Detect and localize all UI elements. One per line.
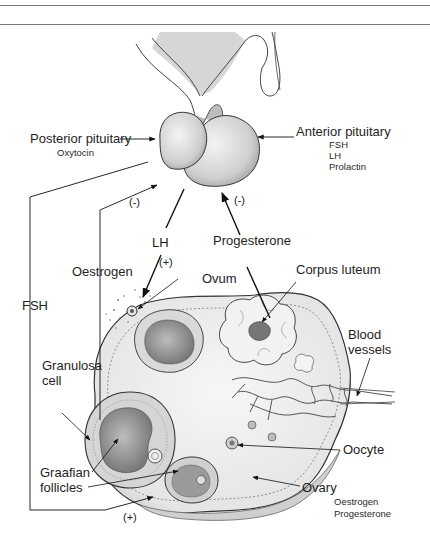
progesterone-feedback-sign: (-) [234, 194, 245, 206]
fsh-label: FSH [22, 298, 48, 313]
posterior-pituitary-hormone-oxytocin: Oxytocin [57, 147, 94, 159]
posterior-pituitary-label: Posterior pituitary [30, 131, 131, 146]
ovary [85, 289, 395, 520]
graafian-follicles-label-line1: Graafian [40, 465, 90, 480]
graafian-follicles-label-line2: follicles [40, 480, 83, 495]
granulosa-cell-label-line1: Granulosa [42, 358, 102, 373]
lh-effect-sign: (+) [159, 256, 173, 268]
ovary-hormone-progesterone: Progesterone [334, 508, 391, 520]
oocyte-label: Oocyte [343, 442, 384, 457]
ovary-label: Ovary [302, 480, 337, 495]
corpus-luteum-label: Corpus luteum [296, 262, 381, 277]
oestrogen-label: Oestrogen [72, 264, 133, 279]
blood-vessels-label-line2: vessels [348, 342, 391, 357]
lh-label: LH [152, 235, 169, 250]
fsh-effect-sign: (+) [123, 511, 137, 523]
granulosa-cell-label-line2: cell [42, 373, 62, 388]
blood-vessels-label-line1: Blood [348, 327, 381, 342]
progesterone-label: Progesterone [213, 233, 291, 248]
oestrogen-feedback-sign: (-) [129, 196, 140, 208]
pituitary-gland [136, 32, 280, 186]
anterior-pituitary-label: Anterior pituitary [296, 124, 391, 139]
ovum-label: Ovum [202, 271, 237, 286]
anterior-pituitary-hormone-prolactin: Prolactin [329, 161, 366, 173]
ovary-hormone-oestrogen: Oestrogen [334, 496, 378, 508]
